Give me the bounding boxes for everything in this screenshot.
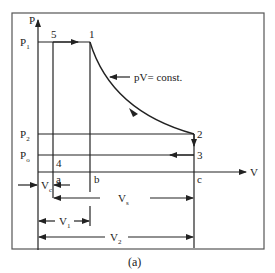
v1-label: V1 (59, 215, 71, 230)
vc-label: Vc (41, 179, 52, 194)
expansion-curve (90, 42, 194, 134)
mark-a-label: a (56, 173, 61, 185)
v2-label: V2 (110, 231, 122, 246)
curve-annotation: pV= const. (134, 71, 183, 83)
pv-diagram: pV= const. P V P1 P2 Po 5 1 2 3 4 a b c … (0, 0, 275, 273)
figure-caption: (a) (128, 255, 141, 269)
point-5-label: 5 (51, 28, 57, 40)
vs-label: Vs (118, 192, 129, 207)
curve-arrow-icon (129, 108, 138, 117)
p0-label: Po (20, 149, 30, 164)
p1-label: P1 (20, 36, 30, 51)
point-4-label: 4 (56, 157, 62, 169)
mark-b-label: b (94, 173, 100, 185)
v-axis-label: V (250, 166, 258, 178)
point-3-label: 3 (197, 149, 203, 161)
p2-label: P2 (20, 128, 30, 143)
p-axis-label: P (29, 14, 35, 26)
mark-c-label: c (197, 173, 202, 185)
diagram-frame (12, 13, 264, 249)
point-2-label: 2 (197, 128, 203, 140)
point-1-label: 1 (89, 28, 95, 40)
